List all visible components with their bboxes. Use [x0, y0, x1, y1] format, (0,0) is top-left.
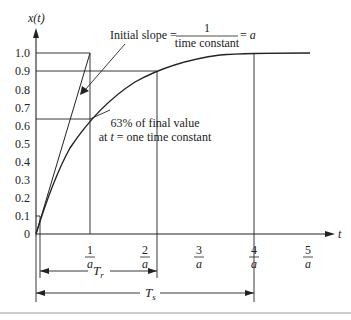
svg-text:0.9: 0.9 — [15, 64, 30, 78]
svg-text:0: 0 — [24, 227, 30, 241]
svg-text:0.2: 0.2 — [15, 191, 30, 205]
settling-time-label: Ts — [145, 285, 156, 302]
svg-text:1: 1 — [204, 21, 210, 35]
settling-right-arrow-icon — [245, 290, 254, 296]
initial-slope-line — [36, 53, 90, 234]
svg-text:time constant: time constant — [175, 36, 240, 50]
svg-text:a: a — [305, 257, 311, 271]
y-axis-label: x(t) — [27, 11, 45, 25]
svg-text:0.4: 0.4 — [15, 155, 30, 169]
x-tick-2-over-a: 2 a — [140, 243, 150, 271]
settling-left-arrow-icon — [36, 290, 45, 296]
slope-annotation: Initial slope = 1 time constant = a — [80, 21, 256, 95]
svg-text:5: 5 — [305, 243, 311, 257]
svg-text:0.3: 0.3 — [15, 173, 30, 187]
svg-text:a: a — [196, 257, 202, 271]
svg-text:2: 2 — [142, 243, 148, 257]
x-tick-labels: 1 a 2 a 3 a 4 a 5 a — [85, 243, 313, 271]
svg-text:at t = one time constant: at t = one time constant — [99, 130, 212, 144]
svg-text:a: a — [142, 257, 148, 271]
step-response-diagram: x(t) t 0 0.1 0.2 0.3 0.4 0.5 0.6 0.7 0.8… — [0, 0, 351, 320]
svg-text:63% of final value: 63% of final value — [111, 116, 200, 130]
rise-right-arrow-icon — [148, 268, 157, 274]
rise-time-label: Tr — [93, 263, 104, 280]
x-axis-arrow-icon — [325, 231, 335, 237]
svg-text:1: 1 — [87, 243, 93, 257]
svg-text:1.0: 1.0 — [15, 46, 30, 60]
svg-text:0.6: 0.6 — [15, 119, 30, 133]
slope-pointer-line — [85, 44, 125, 90]
svg-text:0.5: 0.5 — [15, 137, 30, 151]
y-axis-arrow-icon — [33, 28, 39, 38]
y-tick-labels: 0 0.1 0.2 0.3 0.4 0.5 0.6 0.7 0.8 0.9 1.… — [15, 46, 30, 241]
x-tick-3-over-a: 3 a — [194, 243, 204, 271]
x-tick-5-over-a: 5 a — [303, 243, 313, 271]
svg-text:Initial slope =: Initial slope = — [110, 28, 177, 42]
svg-text:0.7: 0.7 — [15, 101, 30, 115]
rise-left-arrow-icon — [40, 268, 49, 274]
svg-text:0.1: 0.1 — [15, 209, 30, 223]
svg-text:= a: = a — [240, 28, 256, 42]
svg-text:3: 3 — [196, 243, 202, 257]
svg-text:0.8: 0.8 — [15, 83, 30, 97]
x-axis-label: t — [338, 227, 342, 241]
percent-annotation: 63% of final value at t = one time const… — [90, 110, 212, 144]
